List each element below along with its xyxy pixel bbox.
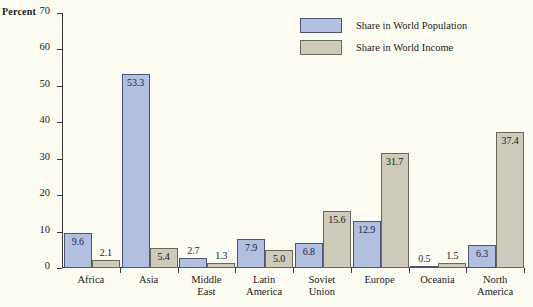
y-axis-tick-mark bbox=[57, 13, 62, 14]
x-axis-tick-mark bbox=[293, 268, 294, 273]
legend-color-swatch bbox=[300, 18, 342, 33]
x-axis-category-label: Africa bbox=[62, 274, 120, 286]
y-axis-tick-mark bbox=[57, 268, 62, 269]
bar-group: 2.71.3 bbox=[179, 13, 235, 268]
bar-income[interactable] bbox=[381, 153, 409, 268]
x-axis-category-label: Latin America bbox=[235, 274, 293, 297]
x-axis-category-label: Asia bbox=[120, 274, 178, 286]
bar-value-label: 15.6 bbox=[323, 214, 351, 225]
bar-population[interactable] bbox=[179, 258, 207, 268]
bar-value-label: 5.0 bbox=[265, 253, 293, 264]
x-axis-category-label: Soviet Union bbox=[293, 274, 351, 297]
bar-group: 53.35.4 bbox=[122, 13, 178, 268]
legend-item-label: Share in World Income bbox=[356, 42, 453, 53]
bar-population[interactable] bbox=[122, 74, 150, 268]
bar-population[interactable] bbox=[410, 266, 438, 268]
bar-group: 9.62.1 bbox=[64, 13, 120, 268]
y-axis-tick-label: 20 bbox=[40, 187, 51, 198]
legend-color-swatch bbox=[300, 40, 342, 55]
x-axis-category-label: Middle East bbox=[178, 274, 236, 297]
x-axis-tick-mark bbox=[351, 268, 352, 273]
y-axis-tick-mark bbox=[57, 122, 62, 123]
y-axis-tick-mark bbox=[57, 232, 62, 233]
x-axis-tick-mark bbox=[178, 268, 179, 273]
chart-legend: Share in World PopulationShare in World … bbox=[300, 14, 467, 58]
x-axis-tick-mark bbox=[235, 268, 236, 273]
x-axis-category-label: Oceania bbox=[409, 274, 467, 286]
y-axis-line bbox=[62, 13, 63, 268]
bar-group: 7.95.0 bbox=[237, 13, 293, 268]
bar-value-label: 6.3 bbox=[468, 248, 496, 259]
x-axis-tick-mark bbox=[524, 268, 525, 273]
y-axis-tick-label: 10 bbox=[40, 224, 51, 235]
legend-item[interactable]: Share in World Population bbox=[300, 14, 467, 36]
legend-item-label: Share in World Population bbox=[356, 20, 467, 31]
legend-item[interactable]: Share in World Income bbox=[300, 36, 467, 58]
y-axis-tick-label: 40 bbox=[40, 114, 51, 125]
y-axis-tick-label: 50 bbox=[40, 78, 51, 89]
bar-value-label: 31.7 bbox=[381, 156, 409, 167]
y-axis-tick-label: 30 bbox=[40, 151, 51, 162]
bar-value-label: 9.6 bbox=[64, 236, 92, 247]
y-axis-tick-label: 70 bbox=[40, 5, 51, 16]
bar-value-label: 12.9 bbox=[353, 224, 381, 235]
x-axis-tick-mark bbox=[409, 268, 410, 273]
bar-value-label: 1.5 bbox=[438, 250, 466, 261]
x-axis-category-label: North America bbox=[466, 274, 524, 297]
bar-income[interactable] bbox=[92, 260, 120, 268]
y-axis-tick-label: 60 bbox=[40, 41, 51, 52]
bar-value-label: 7.9 bbox=[237, 242, 265, 253]
y-axis-caption: Percent bbox=[2, 6, 36, 17]
bar-income[interactable] bbox=[496, 132, 524, 268]
x-axis-tick-mark bbox=[466, 268, 467, 273]
y-axis-tick-mark bbox=[57, 86, 62, 87]
y-axis-tick-mark bbox=[57, 159, 62, 160]
bar-income[interactable] bbox=[438, 263, 466, 268]
bar-value-label: 37.4 bbox=[496, 135, 524, 146]
x-axis-tick-mark bbox=[120, 268, 121, 273]
bar-value-label: 6.8 bbox=[295, 246, 323, 257]
bar-value-label: 2.1 bbox=[92, 247, 120, 258]
bar-value-label: 53.3 bbox=[122, 77, 150, 88]
bar-value-label: 2.7 bbox=[179, 245, 207, 256]
y-axis-tick-label: 0 bbox=[45, 260, 50, 271]
bar-value-label: 5.4 bbox=[150, 251, 178, 262]
bar-income[interactable] bbox=[207, 263, 235, 268]
bar-group: 6.337.4 bbox=[468, 13, 524, 268]
y-axis-tick-mark bbox=[57, 195, 62, 196]
bar-value-label: 1.3 bbox=[207, 250, 235, 261]
x-axis-category-label: Europe bbox=[351, 274, 409, 286]
y-axis-tick-mark bbox=[57, 49, 62, 50]
bar-chart: Percent 010203040506070 9.62.153.35.42.7… bbox=[0, 0, 533, 307]
bar-value-label: 0.5 bbox=[410, 253, 438, 264]
